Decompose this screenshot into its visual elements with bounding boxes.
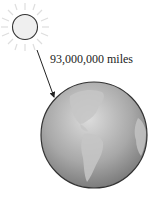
earth-globe-icon: [41, 82, 147, 188]
distance-label: 93,000,000 miles: [50, 52, 133, 67]
sun-icon: [1, 3, 49, 51]
sun-earth-diagram: [0, 0, 154, 198]
